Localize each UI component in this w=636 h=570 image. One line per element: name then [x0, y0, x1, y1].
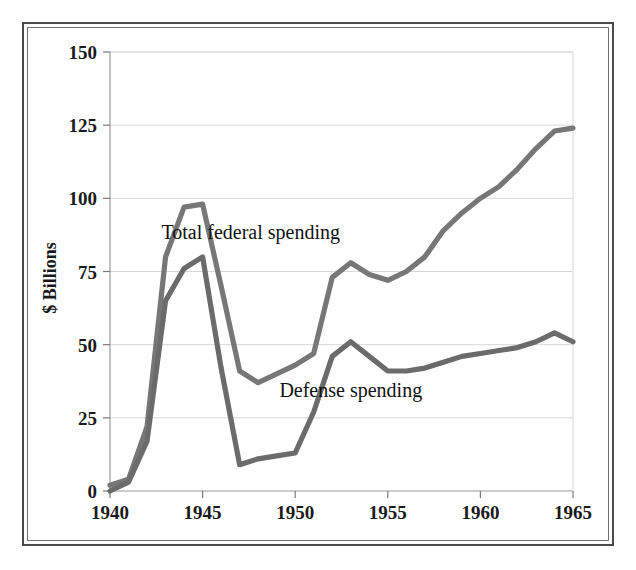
- x-tick-label-1940: 1940: [91, 502, 129, 523]
- x-axis-tick-labels: 194019451950195519601965: [91, 502, 592, 523]
- line-chart: 0255075100125150 19401945195019551960196…: [28, 28, 608, 540]
- y-tick-label-125: 125: [69, 115, 98, 136]
- series-annotation-group: Total federal spendingDefense spending: [161, 221, 422, 402]
- y-tick-label-150: 150: [69, 42, 98, 63]
- series-label-defense-spending: Defense spending: [279, 379, 422, 402]
- x-tick-label-1965: 1965: [554, 502, 592, 523]
- data-series-group: [110, 128, 573, 491]
- y-tick-label-100: 100: [69, 188, 98, 209]
- y-axis-tick-labels: 0255075100125150: [69, 42, 98, 502]
- series-line-total-federal-spending: [110, 128, 573, 485]
- y-tick-label-50: 50: [78, 335, 97, 356]
- y-tick-label-0: 0: [88, 481, 98, 502]
- y-axis-title: $ Billions: [40, 242, 60, 314]
- x-tick-label-1955: 1955: [369, 502, 407, 523]
- series-line-defense-spending: [110, 257, 573, 491]
- x-tick-label-1960: 1960: [461, 502, 499, 523]
- y-tick-label-25: 25: [78, 408, 97, 429]
- x-tick-label-1945: 1945: [184, 502, 222, 523]
- x-tick-label-1950: 1950: [276, 502, 314, 523]
- figure-container: 0255075100125150 19401945195019551960196…: [0, 0, 636, 570]
- series-label-total-federal-spending: Total federal spending: [161, 221, 340, 244]
- y-tick-label-75: 75: [78, 262, 97, 283]
